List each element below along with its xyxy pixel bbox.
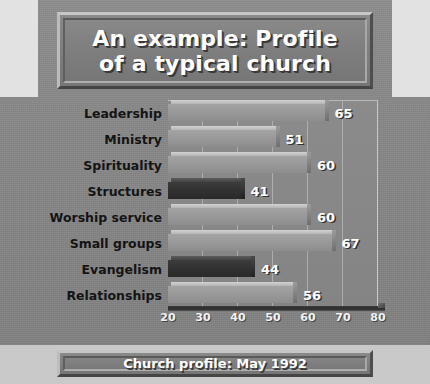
footer-caption: Church profile: May 1992: [123, 356, 307, 371]
bar-end-cap: [332, 230, 336, 251]
x-tick-label-40: 40: [230, 311, 245, 324]
bar-value-label: 60: [317, 158, 335, 173]
category-label: Structures: [88, 184, 162, 199]
category-label: Ministry: [104, 132, 162, 147]
bar-value-label: 41: [251, 184, 269, 199]
bar-end-cap: [251, 256, 255, 277]
bar-value-label: 67: [342, 236, 360, 251]
x-tick-label-70: 70: [335, 311, 350, 324]
bar-value-label: 51: [286, 132, 304, 147]
bar-top-face: [171, 282, 297, 286]
bar-end-cap: [293, 282, 297, 303]
bar-front-face: [168, 286, 294, 303]
x-tick-label-20: 20: [160, 311, 175, 324]
category-label: Worship service: [50, 210, 162, 225]
x-axis-ticks: 20304050607080: [0, 311, 430, 329]
bar-row: Worship service60: [0, 204, 430, 230]
title-plate: An example: Profile of a typical church: [57, 12, 373, 89]
bar-top-face: [171, 256, 255, 260]
bar-row: Structures41: [0, 178, 430, 204]
bar-end-cap: [325, 100, 329, 121]
bar: [168, 208, 308, 225]
bar: [168, 130, 277, 147]
bar: [168, 260, 252, 277]
bar: [168, 104, 326, 121]
bar-row: Small groups67: [0, 230, 430, 256]
bar-value-label: 60: [317, 210, 335, 225]
bar-value-label: 56: [303, 288, 321, 303]
bar-front-face: [168, 156, 308, 173]
page-title: An example: Profile of a typical church: [86, 26, 343, 76]
bar-row: Leadership65: [0, 100, 430, 126]
bar-top-face: [171, 100, 329, 104]
bar-front-face: [168, 182, 242, 199]
bar-row: Spirituality60: [0, 152, 430, 178]
bar: [168, 156, 308, 173]
bar-front-face: [168, 260, 252, 277]
footer-plate-inner: Church profile: May 1992: [63, 356, 367, 371]
category-label: Evangelism: [82, 262, 162, 277]
bar-top-face: [171, 178, 245, 182]
bar-front-face: [168, 130, 277, 147]
bar-rows: Leadership65Ministry51Spirituality60Stru…: [0, 100, 430, 308]
corner-notch-right: [392, 0, 430, 97]
x-tick-label-80: 80: [370, 311, 385, 324]
bar-row: Evangelism44: [0, 256, 430, 282]
bar-value-label: 65: [335, 106, 353, 121]
slide-canvas: An example: Profile of a typical church …: [0, 0, 430, 384]
bar-end-cap: [276, 126, 280, 147]
bar: [168, 234, 333, 251]
x-tick-label-60: 60: [300, 311, 315, 324]
bar-front-face: [168, 104, 326, 121]
bar-end-cap: [307, 152, 311, 173]
bar-top-face: [171, 152, 311, 156]
bar-value-label: 44: [261, 262, 279, 277]
bar-top-face: [171, 230, 336, 234]
footer-plate: Church profile: May 1992: [57, 350, 373, 377]
category-label: Small groups: [70, 236, 162, 251]
x-tick-label-50: 50: [265, 311, 280, 324]
bar-end-cap: [307, 204, 311, 225]
bar: [168, 286, 294, 303]
bar-end-cap: [241, 178, 245, 199]
bar-row: Relationships56: [0, 282, 430, 308]
bar-front-face: [168, 234, 333, 251]
corner-notch-left: [0, 0, 38, 97]
bar-top-face: [171, 126, 280, 130]
bar-top-face: [171, 204, 311, 208]
bar-row: Ministry51: [0, 126, 430, 152]
bar-front-face: [168, 208, 308, 225]
category-label: Relationships: [66, 288, 162, 303]
bar: [168, 182, 242, 199]
x-tick-label-30: 30: [195, 311, 210, 324]
category-label: Leadership: [84, 106, 162, 121]
category-label: Spirituality: [83, 158, 162, 173]
title-plate-inner: An example: Profile of a typical church: [63, 18, 367, 83]
